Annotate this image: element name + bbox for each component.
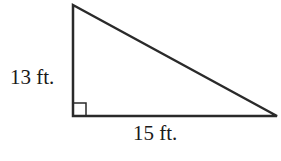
right-triangle-figure: 13 ft. 15 ft.	[0, 0, 281, 161]
base-label: 15 ft.	[133, 123, 177, 144]
right-angle-marker	[73, 103, 86, 116]
height-label: 13 ft.	[10, 67, 54, 88]
triangle-shape	[73, 5, 277, 116]
